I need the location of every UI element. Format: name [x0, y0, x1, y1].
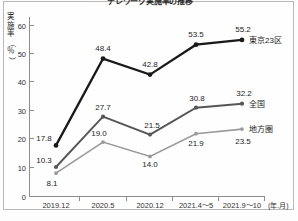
data-point-regional-2	[148, 155, 152, 159]
data-point-national-3	[194, 106, 198, 110]
y-tick-label-40: 40	[18, 78, 26, 87]
data-label-national-0: 10.3	[36, 156, 52, 165]
y-tick-label-60: 60	[18, 22, 26, 31]
data-point-national-1	[101, 115, 105, 119]
data-point-tokyo-2	[148, 72, 153, 77]
y-tick-label-10: 10	[18, 164, 26, 173]
x-axis-unit-label: (年.月)	[268, 201, 289, 210]
data-label-regional-0: 8.1	[46, 179, 58, 188]
data-label-regional-3: 21.9	[188, 139, 204, 148]
data-label-regional-4: 23.5	[235, 137, 251, 146]
data-point-tokyo-0	[54, 143, 59, 148]
data-point-regional-1	[101, 140, 105, 144]
data-point-tokyo-4	[240, 38, 245, 43]
data-label-national-1: 27.7	[95, 103, 111, 112]
data-label-tokyo-3: 53.5	[188, 30, 204, 39]
data-point-national-2	[148, 133, 152, 137]
x-tick-label-1: 2020.5	[92, 201, 115, 210]
y-tick-label-50: 50	[18, 50, 26, 59]
data-point-tokyo-3	[194, 42, 199, 47]
x-tick-label-4: 2021.9〜10	[223, 201, 261, 210]
series-label-national: 全国	[249, 99, 265, 109]
x-tick-label-0: 2019.12	[42, 201, 69, 210]
data-label-tokyo-4: 55.2	[235, 25, 251, 34]
y-tick-label-20: 20	[18, 135, 26, 144]
series-points-national	[54, 102, 244, 169]
data-label-tokyo-0: 17.8	[36, 134, 52, 143]
series-label-regional: 地方圏	[249, 124, 273, 134]
data-point-tokyo-1	[101, 56, 106, 61]
data-label-national-3: 30.8	[189, 94, 205, 103]
data-label-regional-1: 19.0	[91, 129, 107, 138]
x-tick-label-3: 2021.4〜5	[179, 201, 213, 210]
data-point-national-0	[54, 165, 58, 169]
y-tick-label-0: 0	[22, 193, 26, 202]
chart-screenshot: テレワーク実施率の推移 実 施 率 （ ％ ） 60 50 40 30 20 1…	[0, 0, 298, 221]
data-label-national-4: 32.2	[236, 89, 252, 98]
data-label-regional-2: 14.0	[142, 160, 158, 169]
y-ticks	[30, 26, 35, 168]
data-point-regional-4	[240, 127, 244, 131]
data-label-tokyo-1: 48.4	[95, 44, 111, 53]
x-ticks	[80, 197, 265, 201]
series-label-tokyo: 東京23区	[249, 35, 282, 45]
data-label-tokyo-2: 42.8	[142, 60, 158, 69]
data-point-regional-3	[194, 132, 198, 136]
y-tick-label-30: 30	[18, 107, 26, 116]
data-label-national-2: 21.5	[144, 121, 160, 130]
chart-plot: 60 50 40 30 20 10 0 2019.12 2020.5 2020.…	[0, 0, 298, 221]
data-point-regional-0	[54, 171, 58, 175]
x-tick-label-2: 2020.12	[136, 201, 163, 210]
data-point-national-4	[240, 102, 244, 106]
